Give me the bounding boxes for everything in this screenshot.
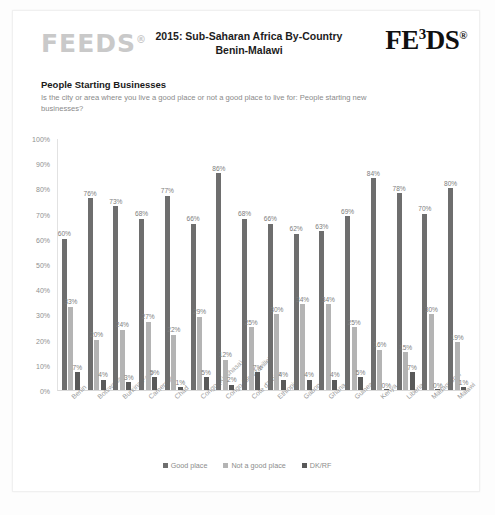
bar-value-label: 73% (109, 198, 122, 205)
bar (113, 206, 118, 390)
bar (146, 322, 151, 390)
bar (223, 360, 228, 390)
bar-value-label: 7% (73, 364, 83, 371)
bar (281, 380, 286, 390)
question-text: Is the city or area where you live a goo… (41, 93, 371, 114)
bar-value-label: 63% (315, 223, 328, 230)
bar (307, 380, 312, 390)
bar-value-label: 25% (245, 319, 258, 326)
y-axis-tick-label: 70% (36, 211, 50, 218)
page-title: 2015: Sub-Saharan Africa By-Country Beni… (135, 29, 363, 57)
bar-group: 60%33%7% (62, 138, 80, 390)
bar (68, 307, 73, 390)
bar (139, 219, 144, 390)
bar (152, 377, 157, 390)
legend-item[interactable]: Not a good place (223, 461, 285, 470)
bar (75, 372, 80, 390)
legend-item[interactable]: Good place (163, 461, 208, 470)
fe3ds-logo-suffix: DS (426, 25, 460, 55)
bar (332, 380, 337, 390)
bar-group: 66%29%5% (191, 138, 209, 390)
bar (345, 216, 350, 390)
bar-group: 73%24%3% (113, 138, 131, 390)
y-axis-tick-label: 40% (36, 287, 50, 294)
bar-group: 69%25%5% (345, 138, 363, 390)
bar (422, 214, 427, 390)
bar-value-label: 1% (459, 379, 469, 386)
bar-value-label: 33% (64, 298, 77, 305)
page-canvas: FEEDS® 2015: Sub-Saharan Africa By-Count… (0, 0, 495, 515)
y-axis-tick-label: 20% (36, 337, 50, 344)
bar-value-label: 2% (227, 376, 237, 383)
bar-value-label: 60% (58, 230, 71, 237)
legend-label: Not a good place (231, 461, 285, 470)
bar-chart: 0%10%20%30%40%50%60%70%80%90%100% Benin6… (23, 139, 475, 409)
y-axis-tick-label: 0% (40, 388, 50, 395)
bar-value-label: 0% (382, 382, 392, 389)
bar-value-label: 1% (176, 379, 186, 386)
fe3ds-logo: FE3DS® (385, 25, 467, 56)
bar (384, 389, 389, 390)
bar-value-label: 4% (98, 371, 108, 378)
bar-value-label: 84% (367, 170, 380, 177)
bar (242, 219, 247, 390)
bar (274, 314, 279, 390)
bar-value-label: 12% (219, 351, 232, 358)
bar-value-label: 5% (356, 369, 366, 376)
bar-group: 66%30%4% (268, 138, 286, 390)
legend-label: Good place (171, 461, 208, 470)
bar (461, 387, 466, 390)
bar (435, 389, 440, 390)
legend-item[interactable]: DK/RF (302, 461, 332, 470)
bar-value-label: 25% (348, 319, 361, 326)
bar-value-label: 5% (201, 369, 211, 376)
bar-value-label: 5% (150, 369, 160, 376)
bar (126, 382, 131, 390)
bar-value-label: 15% (399, 344, 412, 351)
bar-value-label: 0% (433, 382, 443, 389)
report-header: FEEDS® 2015: Sub-Saharan Africa By-Count… (13, 19, 481, 77)
report-sheet: FEEDS® 2015: Sub-Saharan Africa By-Count… (12, 10, 480, 492)
bar-value-label: 22% (167, 326, 180, 333)
bar (255, 372, 260, 390)
bar-group: 68%27%5% (139, 138, 157, 390)
page-title-line2: Benin-Malawi (135, 43, 363, 57)
bar-value-label: 80% (444, 180, 457, 187)
legend-swatch-icon (302, 463, 307, 468)
feeds-logo-text: FEEDS (41, 29, 136, 58)
feeds-logo: FEEDS® (41, 29, 147, 58)
y-axis-tick-label: 50% (36, 262, 50, 269)
bar-value-label: 70% (418, 205, 431, 212)
y-axis-tick-label: 30% (36, 312, 50, 319)
bar-group: 84%16%0% (371, 138, 389, 390)
bar-value-label: 27% (142, 313, 155, 320)
bar-value-label: 24% (116, 321, 129, 328)
bar-value-label: 34% (296, 296, 309, 303)
fe3ds-logo-superscript: 3 (419, 26, 426, 42)
bar-value-label: 66% (187, 215, 200, 222)
bar-value-label: 77% (161, 187, 174, 194)
bar-value-label: 66% (264, 215, 277, 222)
bar-value-label: 16% (373, 341, 386, 348)
legend-label: DK/RF (310, 461, 332, 470)
bar-value-label: 30% (425, 306, 438, 313)
bar (88, 198, 93, 390)
bar-group: 80%19%1% (448, 138, 466, 390)
question-block: People Starting Businesses Is the city o… (41, 79, 371, 114)
bar-group: 76%20%4% (88, 138, 106, 390)
bar-value-label: 78% (393, 185, 406, 192)
bar-value-label: 4% (304, 371, 314, 378)
bar (403, 352, 408, 390)
bar-value-label: 20% (90, 331, 103, 338)
plot-area: Benin60%33%7%Botswana76%20%4%Burkina Fas… (57, 139, 469, 391)
bar (294, 234, 299, 390)
bar-group: 86%12%2% (216, 138, 234, 390)
y-axis-tick-label: 90% (36, 161, 50, 168)
legend-swatch-icon (163, 463, 168, 468)
bar-group: 68%25%7% (242, 138, 260, 390)
y-axis-tick-label: 10% (36, 362, 50, 369)
bar (371, 178, 376, 390)
fe3ds-logo-prefix: FE (385, 25, 419, 55)
bar-group: 62%34%4% (294, 138, 312, 390)
y-axis: 0%10%20%30%40%50%60%70%80%90%100% (23, 139, 53, 391)
